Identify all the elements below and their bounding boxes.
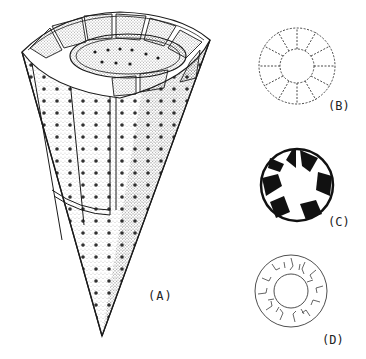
panel-d-label: (D) [322, 333, 344, 347]
panel-c-solid-ring [261, 149, 333, 221]
panel-a-label: (A) [148, 289, 173, 303]
panel-d-fibrous-ring [255, 255, 327, 327]
panel-b-dashed-ring [259, 28, 335, 104]
panel-b-label: (B) [328, 99, 350, 113]
figure-illustration: (A) (B) [0, 0, 366, 359]
panel-a-cone [20, 12, 210, 340]
panel-c-label: (C) [328, 215, 350, 229]
